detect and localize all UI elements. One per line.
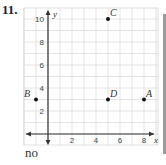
grid [24,8,158,145]
point-label-b: B [24,88,30,99]
x-axis-label: x [153,135,158,145]
coordinate-plane: xy 2468246810 ABCD [0,0,166,165]
y-tick-label: 4 [40,84,45,93]
point-b [34,98,38,102]
y-tick-label: 2 [40,107,45,116]
point-label-c: C [110,7,117,18]
x-tick-label: 6 [118,136,123,145]
answer-text: no [25,145,38,161]
y-axis-label: y [52,9,57,19]
x-tick-label: 4 [94,136,99,145]
y-tick-label: 10 [35,15,44,24]
y-tick-label: 6 [40,61,45,70]
x-tick-label: 8 [142,136,147,145]
x-tick-label: 2 [70,136,75,145]
point-label-d: D [109,88,118,99]
point-label-a: A [145,88,153,99]
page-edge-bar [163,14,166,154]
y-tick-label: 8 [40,38,45,47]
